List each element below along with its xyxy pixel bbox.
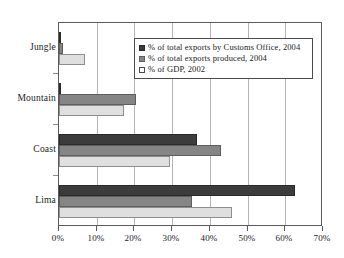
legend-item: % of total exports by Customs Office, 20… — [139, 42, 308, 53]
x-axis-label-60: 60% — [264, 233, 304, 243]
bar — [59, 196, 192, 207]
bar — [59, 145, 221, 156]
x-axis-label-0: 0% — [38, 233, 78, 243]
bar — [59, 94, 136, 105]
legend-item: % of total exports produced, 2004 — [139, 53, 308, 64]
legend-label-series-2: % of GDP, 2002 — [148, 64, 205, 75]
bar — [59, 105, 124, 116]
x-axis-label-30: 30% — [151, 233, 191, 243]
x-axis-label-40: 40% — [189, 233, 229, 243]
y-axis-label-lima: Lima — [0, 195, 56, 205]
y-axis-tick — [53, 73, 58, 74]
legend-swatch-series-2 — [139, 67, 145, 73]
bar — [59, 134, 197, 145]
bar — [59, 185, 295, 196]
x-axis-tick-40 — [209, 226, 210, 231]
bar-group — [59, 125, 321, 176]
x-axis-tick-50 — [247, 226, 248, 231]
legend-swatch-series-0 — [139, 45, 145, 51]
bar — [59, 156, 170, 167]
y-axis-label-mountain: Mountain — [0, 93, 56, 103]
x-axis-tick-0 — [58, 226, 59, 231]
bar — [59, 54, 85, 65]
bar-group — [59, 74, 321, 125]
legend-label-series-0: % of total exports by Customs Office, 20… — [148, 42, 300, 53]
bar — [59, 207, 232, 218]
bar-chart: JungleMountainCoastLima 0%10%20%30%40%50… — [0, 0, 344, 258]
bar — [59, 83, 61, 94]
x-axis-tick-10 — [96, 226, 97, 231]
bar-group — [59, 176, 321, 227]
y-axis-tick — [53, 124, 58, 125]
x-axis-tick-30 — [171, 226, 172, 231]
x-axis-label-50: 50% — [227, 233, 267, 243]
y-axis-label-jungle: Jungle — [0, 42, 56, 52]
y-axis-tick — [53, 175, 58, 176]
legend-swatch-series-1 — [139, 56, 145, 62]
y-axis-label-coast: Coast — [0, 144, 56, 154]
legend-label-series-1: % of total exports produced, 2004 — [148, 53, 267, 64]
x-axis-tick-20 — [133, 226, 134, 231]
chart-legend: % of total exports by Customs Office, 20… — [134, 38, 313, 79]
x-axis-tick-70 — [322, 226, 323, 231]
x-axis-label-10: 10% — [76, 233, 116, 243]
bar — [59, 43, 63, 54]
x-axis-label-20: 20% — [113, 233, 153, 243]
legend-item: % of GDP, 2002 — [139, 64, 308, 75]
x-axis-label-70: 70% — [302, 233, 342, 243]
bar — [59, 32, 61, 43]
x-axis-tick-60 — [284, 226, 285, 231]
